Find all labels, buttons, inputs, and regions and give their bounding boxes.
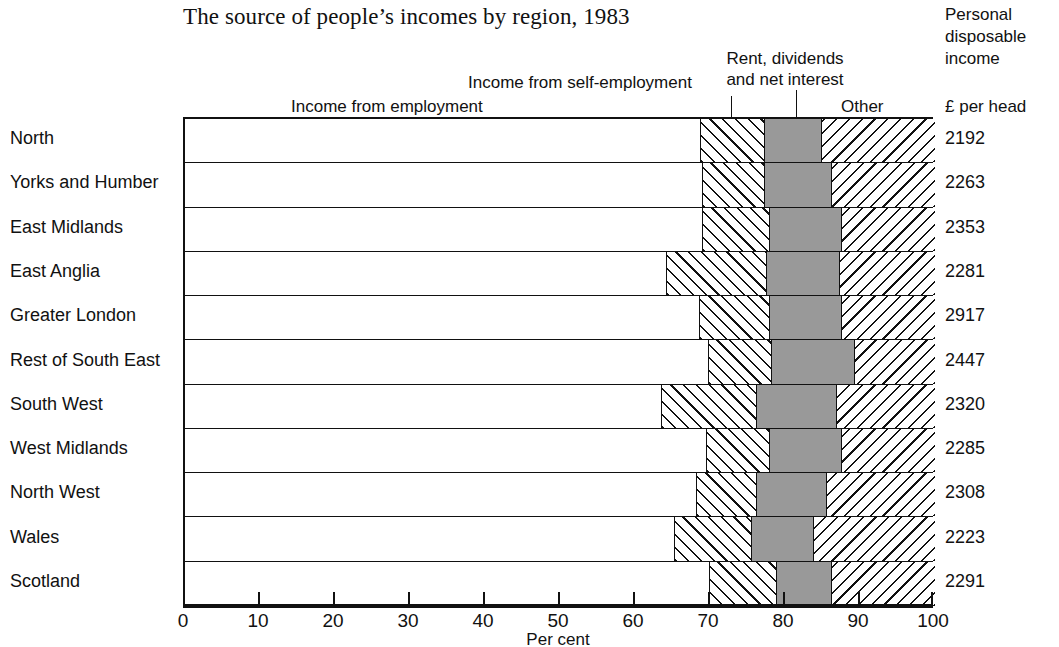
- pdi-caption-line2: disposable: [945, 26, 1026, 48]
- bar-row: [185, 119, 931, 163]
- bar-segment: [703, 208, 770, 251]
- value-label: 2192: [945, 128, 985, 149]
- region-label: North West: [10, 482, 100, 503]
- x-axis-tick: [783, 592, 785, 604]
- x-axis-tick: [183, 592, 185, 604]
- bar-segment: [772, 340, 855, 383]
- value-label: 2285: [945, 438, 985, 459]
- bar-segment: [710, 562, 777, 606]
- bar-segment: [822, 119, 935, 162]
- x-axis-tick-label: 100: [917, 610, 949, 632]
- bar-segment: [675, 517, 752, 560]
- x-axis-tick-label: 90: [847, 610, 868, 632]
- bar-row: [185, 296, 931, 340]
- bar-row: [185, 517, 931, 561]
- value-label: 2263: [945, 172, 985, 193]
- plot-area: [183, 117, 933, 604]
- x-axis-title: Per cent: [526, 630, 589, 647]
- callout-income-from-employment: Income from employment: [291, 96, 483, 117]
- bar-segment: [185, 252, 667, 295]
- bar-segment: [662, 385, 757, 428]
- chart-page: The source of people’s incomes by region…: [0, 0, 1059, 647]
- callout-per-head: £ per head: [945, 96, 1026, 117]
- value-label: 2353: [945, 217, 985, 238]
- bar-segment: [185, 473, 697, 516]
- bar-segment: [842, 429, 935, 472]
- bar-segment: [707, 429, 770, 472]
- x-axis-tick: [708, 592, 710, 604]
- bar-row: [185, 163, 931, 207]
- leader-line-self-employment: [731, 96, 732, 117]
- region-label: South West: [10, 394, 103, 415]
- x-axis-tick-label: 20: [322, 610, 343, 632]
- bar-segment: [185, 517, 675, 560]
- bar-segment: [667, 252, 767, 295]
- bar-segment: [842, 208, 935, 251]
- callout-income-from-self-employment: Income from self-employment: [468, 72, 692, 93]
- leader-line-rent: [796, 90, 797, 117]
- bar-segment: [709, 340, 772, 383]
- x-axis-tick-label: 0: [178, 610, 189, 632]
- x-axis-tick-label: 40: [472, 610, 493, 632]
- bar-segment: [185, 119, 701, 162]
- x-axis-tick-label: 50: [547, 610, 568, 632]
- bar-row: [185, 385, 931, 429]
- region-label: West Midlands: [10, 438, 128, 459]
- bar-segment: [855, 340, 935, 383]
- x-axis-tick-label: 60: [622, 610, 643, 632]
- value-label: 2223: [945, 527, 985, 548]
- x-axis-tick: [633, 592, 635, 604]
- personal-disposable-income-caption: Personal disposable income: [945, 4, 1026, 70]
- x-axis-tick-label: 80: [772, 610, 793, 632]
- bar-segment: [185, 429, 707, 472]
- bar-segment: [185, 208, 703, 251]
- value-label: 2917: [945, 305, 985, 326]
- x-axis: [183, 604, 933, 608]
- callout-rent-line2: and net interest: [726, 69, 843, 90]
- bar-segment: [842, 296, 935, 339]
- region-label: Scotland: [10, 571, 80, 592]
- bar-segment: [827, 473, 935, 516]
- bar-row: [185, 208, 931, 252]
- bar-row: [185, 340, 931, 384]
- bar-segment: [832, 163, 935, 206]
- bar-segment: [765, 163, 833, 206]
- bar-segment: [770, 429, 842, 472]
- bar-segment: [185, 385, 662, 428]
- bar-row: [185, 429, 931, 473]
- pdi-caption-line1: Personal: [945, 4, 1026, 26]
- bar-segment: [770, 296, 842, 339]
- x-axis-tick: [858, 592, 860, 604]
- pdi-caption-line3: income: [945, 48, 1026, 70]
- x-axis-tick: [558, 592, 560, 604]
- x-axis-tick-label: 70: [697, 610, 718, 632]
- bar-segment: [757, 473, 827, 516]
- bar-segment: [757, 385, 837, 428]
- value-label: 2308: [945, 482, 985, 503]
- x-axis-tick: [408, 592, 410, 604]
- callout-rent-line1: Rent, dividends: [726, 48, 843, 69]
- value-label: 2447: [945, 350, 985, 371]
- bar-row: [185, 252, 931, 296]
- bar-segment: [767, 252, 840, 295]
- region-label: Rest of South East: [10, 350, 160, 371]
- bar-segment: [840, 252, 935, 295]
- bar-segment: [700, 296, 770, 339]
- bar-segment: [765, 119, 822, 162]
- x-axis-tick: [483, 592, 485, 604]
- region-label: North: [10, 128, 54, 149]
- region-label: Yorks and Humber: [10, 172, 158, 193]
- x-axis-tick-label: 30: [397, 610, 418, 632]
- callout-rent-dividends-net-interest: Rent, dividends and net interest: [726, 48, 843, 90]
- bar-segment: [814, 517, 935, 560]
- bar-row: [185, 473, 931, 517]
- page-title: The source of people’s incomes by region…: [183, 4, 630, 30]
- x-axis-tick: [258, 592, 260, 604]
- region-label: Greater London: [10, 305, 136, 326]
- value-label: 2291: [945, 571, 985, 592]
- bar-segment: [185, 340, 709, 383]
- bar-segment: [701, 119, 765, 162]
- bar-segment: [185, 163, 703, 206]
- bar-segment: [777, 562, 833, 606]
- region-label: Wales: [10, 527, 59, 548]
